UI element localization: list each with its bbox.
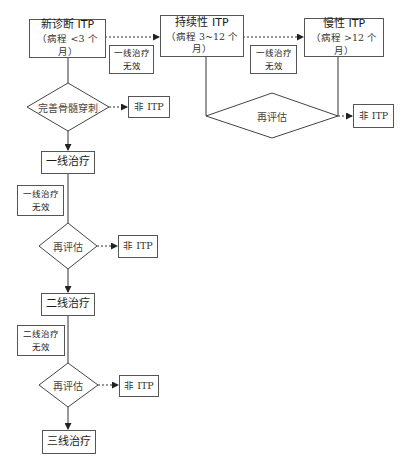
failure-label-line1: 二线治疗 — [23, 328, 59, 341]
stage-persistent-itp-box: 持续性 ITP （病程 3~12 个月） — [160, 15, 244, 57]
stage-new-title: 新诊断 ITP — [41, 18, 94, 33]
treatment-first-line-label: 一线治疗 — [46, 155, 90, 170]
stage-chronic-itp-box: 慢性 ITP （病程 >12 个月） — [304, 18, 384, 57]
stage-chronic-subtitle: （病程 >12 个月） — [305, 32, 383, 58]
stage-new-itp-box: 新诊断 ITP （病程 <3 个月） — [29, 19, 106, 58]
stage-new-subtitle: （病程 <3 个月） — [30, 33, 105, 59]
non-itp-label: 非 ITP — [359, 110, 389, 123]
failure-label-line2: 无效 — [32, 201, 50, 214]
failure-label-line2: 无效 — [32, 341, 50, 354]
transition-label-line2: 无效 — [265, 60, 283, 73]
non-itp-label: 非 ITP — [124, 380, 154, 393]
non-itp-label: 非 ITP — [134, 101, 164, 114]
stage-persistent-title: 持续性 ITP — [175, 16, 228, 31]
decision-reassess-first-text: 再评估 — [53, 239, 83, 254]
transition-label-new-to-persistent: 一线治疗 无效 — [109, 45, 154, 74]
non-itp-label: 非 ITP — [123, 240, 153, 253]
decision-reassess-top-text: 再评估 — [257, 109, 287, 124]
flowchart-connectors — [0, 0, 407, 474]
transition-label-persistent-to-chronic: 一线治疗 无效 — [250, 45, 297, 74]
treatment-second-line-box: 二线治疗 — [41, 293, 95, 316]
treatment-first-line-box: 一线治疗 — [41, 151, 95, 174]
failure-label-second-line: 二线治疗 无效 — [17, 325, 65, 356]
treatment-third-line-box: 三线治疗 — [42, 430, 96, 454]
treatment-second-line-label: 二线治疗 — [46, 297, 90, 312]
non-itp-box-reassess-second: 非 ITP — [119, 375, 159, 397]
failure-label-line1: 一线治疗 — [23, 188, 59, 201]
treatment-third-line-label: 三线治疗 — [47, 435, 91, 450]
transition-label-line2: 无效 — [123, 60, 141, 73]
non-itp-box-reassess-top: 非 ITP — [353, 104, 394, 128]
decision-reassess-second-text: 再评估 — [53, 378, 83, 393]
transition-label-line1: 一线治疗 — [256, 47, 292, 60]
non-itp-box-reassess-first: 非 ITP — [118, 235, 158, 258]
transition-label-line1: 一线治疗 — [114, 47, 150, 60]
decision-bone-marrow-text: 完善骨髓穿刺 — [38, 100, 98, 115]
failure-label-first-line: 一线治疗 无效 — [17, 185, 64, 216]
non-itp-box-bone-marrow: 非 ITP — [128, 96, 170, 118]
stage-chronic-title: 慢性 ITP — [323, 17, 365, 32]
stage-persistent-subtitle: （病程 3~12 个月） — [161, 31, 243, 57]
